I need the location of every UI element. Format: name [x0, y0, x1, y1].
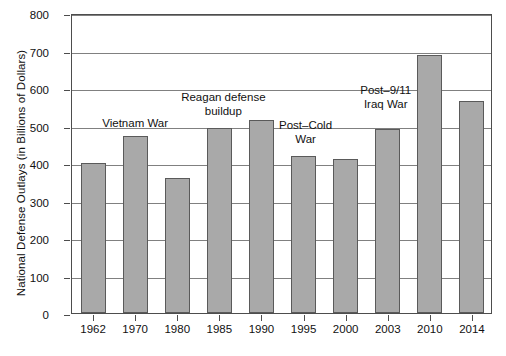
y-axis-title: National Defense Outlays (in Billions of…: [10, 8, 32, 338]
annotation-line: Iraq War: [306, 97, 466, 111]
annotation-1985: Reagan defensebuildup: [143, 90, 303, 118]
bar-1970: [123, 136, 148, 313]
y-tick-label-300: 300: [9, 198, 49, 208]
x-tick-mark-1980: [177, 315, 178, 321]
annotation-line: War: [226, 132, 386, 146]
y-tick-mark-300: [64, 203, 70, 204]
bar-1980: [165, 178, 190, 313]
annotation-line: Reagan defense: [143, 90, 303, 104]
y-tick-label-0: 0: [9, 310, 49, 320]
plot-area: 0100200300400500600700800196219701980198…: [71, 14, 492, 314]
x-tick-label-2014: 2014: [446, 323, 498, 335]
bar-1962: [81, 163, 106, 313]
y-tick-label-500: 500: [9, 123, 49, 133]
x-tick-mark-2000: [346, 315, 347, 321]
y-tick-label-800: 800: [9, 10, 49, 20]
bar-1995: [291, 156, 316, 314]
y-tick-label-700: 700: [9, 48, 49, 58]
gridline-700: [72, 53, 491, 54]
y-tick-label-200: 200: [9, 235, 49, 245]
x-tick-mark-1990: [261, 315, 262, 321]
x-tick-mark-1995: [304, 315, 305, 321]
annotation-line: buildup: [143, 104, 303, 118]
annotation-1970: Vietnam War: [55, 116, 215, 130]
y-tick-mark-100: [64, 278, 70, 279]
y-tick-mark-400: [64, 165, 70, 166]
bar-2003: [375, 129, 400, 313]
x-tick-mark-2014: [472, 315, 473, 321]
annotation-line: Post–Cold: [226, 118, 386, 132]
defense-outlays-bar-chart: National Defense Outlays (in Billions of…: [0, 0, 506, 356]
annotation-line: Post–9/11: [306, 83, 466, 97]
y-tick-mark-200: [64, 240, 70, 241]
y-tick-mark-800: [64, 15, 70, 16]
x-tick-mark-1985: [219, 315, 220, 321]
annotation-line: Vietnam War: [55, 116, 215, 130]
bar-2014: [459, 101, 484, 313]
y-tick-mark-600: [64, 90, 70, 91]
y-tick-mark-0: [64, 315, 70, 316]
x-tick-mark-2010: [430, 315, 431, 321]
bar-1985: [207, 128, 232, 313]
y-tick-label-100: 100: [9, 273, 49, 283]
annotation-2003: Post–9/11Iraq War: [306, 83, 466, 111]
gridline-800: [72, 15, 491, 16]
y-tick-label-600: 600: [9, 85, 49, 95]
y-tick-label-400: 400: [9, 160, 49, 170]
bar-1990: [249, 120, 274, 314]
x-tick-mark-1962: [93, 315, 94, 321]
annotation-1995: Post–ColdWar: [226, 118, 386, 146]
bar-2000: [333, 159, 358, 313]
x-tick-mark-1970: [135, 315, 136, 321]
x-tick-mark-2003: [388, 315, 389, 321]
y-tick-mark-700: [64, 53, 70, 54]
